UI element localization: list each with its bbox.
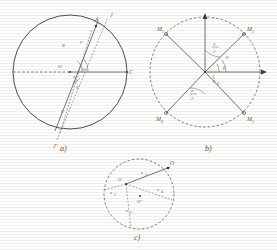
panel-c-label-e2: e [126, 208, 128, 213]
panel-b-caption: b) [205, 144, 212, 153]
panel-c-chord-O [126, 167, 170, 184]
panel-c-label-e3: e [110, 190, 112, 195]
panel-a-label-J-prime: J' [53, 143, 58, 149]
panel-b-label-a-lower-den: 2 [191, 96, 194, 101]
panel-a-point-A [95, 25, 97, 27]
diagram-svg: A C J J' O' O α θ" R θ' R' a) [0, 0, 277, 250]
panel-b-fraction-upper: a 2 [212, 41, 219, 54]
panel-a-label-J: J [110, 12, 113, 18]
panel-c-point-O-dprime [139, 195, 141, 197]
panel-a-ray-J [57, 17, 108, 140]
panel-a-caption: a) [60, 144, 67, 153]
figure-canvas: A C J J' O' O α θ" R θ' R' a) [0, 0, 277, 250]
panel-c-label-e2-sub: 2 [130, 210, 132, 215]
panel-b-label-a-upper-den: 2 [213, 49, 216, 54]
panel-c-label-O-dprime: O" [137, 199, 142, 204]
panel-c-spoke-e2 [126, 184, 131, 228]
panel-b-label-M4-sub: 4 [161, 119, 163, 124]
panel-c-label-O: O [170, 160, 175, 166]
panel-a-label-R-prime: R' [60, 109, 64, 114]
panel-b-label-M1-group: M 1 [156, 26, 164, 34]
panel-a-label-A: A [94, 16, 99, 22]
panel-c-caption: c) [134, 233, 141, 242]
panel-b-label-M3-sub: 3 [252, 119, 254, 124]
panel-b-theta-zero-group: θ 0 [213, 79, 219, 86]
panel-b-label-M2-group: M 2 [246, 26, 254, 34]
panel-b-label-M1-sub: 1 [162, 29, 164, 34]
panel-c-point-O-prime [125, 183, 127, 185]
panel-c-label-e4-sub: 4 [161, 189, 163, 194]
panel-c-label-e3-group: e 3 [110, 190, 116, 197]
panel-c-label-e3-sub: 3 [114, 192, 116, 197]
panel-c: O O' O" e 1 e 2 e 3 e 4 c) [104, 159, 175, 242]
panel-b-arc-beta [217, 64, 219, 72]
panel-a-label-R: R [61, 43, 65, 48]
panel-c-label-e4-group: e 4 [157, 187, 163, 194]
panel-c-label-O-prime: O' [118, 177, 123, 182]
panel-c-spoke-e4 [126, 184, 172, 200]
panel-b-label-a-upper: a [213, 41, 216, 46]
panel-c-label-e1: e [141, 170, 143, 175]
panel-b-label-M2-sub: 2 [252, 29, 254, 34]
panel-c-label-e1-group: e 1 [141, 170, 147, 177]
panel-a-label-O: O [82, 67, 86, 72]
panel-c-label-e4: e [157, 187, 159, 192]
panel-c-label-e1-sub: 1 [145, 172, 147, 177]
panel-b-label-M3-group: M 3 [246, 116, 254, 124]
panel-a-label-O-prime: O' [58, 64, 63, 69]
panel-b-fraction-lower: a 2 [190, 88, 197, 101]
panel-c-point-O [167, 167, 170, 170]
panel-a-label-C: C [129, 69, 134, 75]
panel-b-label-a-lower: a [191, 88, 194, 93]
panel-b-label-theta: θ [226, 55, 229, 60]
panel-b: M 1 M 2 M 3 M 4 a 2 a 2 θ β θ 0 [150, 13, 267, 153]
panel-a-radius-line-R [55, 21, 98, 131]
panel-b-label-M4-group: M 4 [155, 116, 163, 124]
panel-b-center-point [204, 71, 206, 73]
panel-a-label-theta-dprime: θ" [76, 85, 80, 90]
panel-a-label-theta-prime: θ' [80, 40, 83, 45]
panel-a-point-O [69, 71, 71, 73]
panel-b-spoke-M3 [205, 72, 244, 113]
panel-b-axis-horizontal-arrow [261, 70, 267, 75]
panel-a-point-C [126, 71, 128, 73]
panel-b-axis-vertical-arrow [203, 13, 208, 19]
panel-a: A C J J' O' O α θ" R θ' R' a) [13, 12, 134, 153]
panel-b-label-theta-zero-sub: 0 [217, 81, 219, 86]
panel-b-spoke-M4 [166, 72, 205, 113]
panel-b-spoke-M1 [166, 34, 205, 72]
panel-c-spoke-e3 [104, 184, 126, 190]
